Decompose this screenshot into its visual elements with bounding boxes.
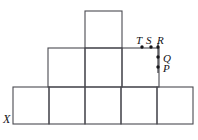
grid-cell (85, 48, 122, 87)
point-label-s: S (146, 35, 152, 46)
point-markers (140, 43, 159, 73)
grid-cell (13, 87, 49, 124)
point-label-r: R (157, 35, 164, 46)
geometry-figure: TSRQPX (0, 0, 198, 140)
grid-cell (122, 48, 159, 87)
grid-cell (85, 87, 121, 124)
point-dot-q (156, 55, 159, 58)
point-label-t: T (136, 35, 142, 46)
grid-cell (85, 11, 122, 48)
grid-cell (48, 48, 85, 87)
grid-cell (49, 87, 85, 124)
point-label-p: P (163, 63, 170, 74)
grid-cell (121, 87, 157, 124)
point-dot-p (156, 65, 159, 68)
corner-label-x: X (3, 113, 10, 125)
grid-cell (157, 87, 193, 124)
